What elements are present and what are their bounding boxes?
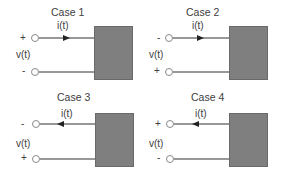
- case-1: Case 1 i(t) + v(t) -: [0, 0, 141, 87]
- top-terminal-icon: [166, 35, 173, 42]
- network-box: [229, 26, 268, 80]
- case-4: Case 4 i(t) + v(t) -: [141, 87, 282, 174]
- network-box: [229, 113, 268, 167]
- bottom-terminal-icon: [167, 156, 174, 163]
- arrow-left-icon: [192, 121, 199, 127]
- network-box: [95, 113, 134, 167]
- bottom-terminal-icon: [33, 156, 40, 163]
- bottom-terminal-icon: [166, 69, 173, 76]
- case-3: Case 3 i(t) - v(t) +: [0, 87, 141, 174]
- network-box: [94, 26, 133, 80]
- bottom-terminal-icon: [32, 69, 39, 76]
- arrow-right-icon: [197, 35, 204, 41]
- top-terminal-icon: [32, 35, 39, 42]
- arrow-right-icon: [63, 35, 70, 41]
- arrow-left-icon: [57, 121, 64, 127]
- case-2: Case 2 i(t) - v(t) +: [141, 0, 282, 87]
- top-terminal-icon: [33, 121, 40, 128]
- top-terminal-icon: [167, 121, 174, 128]
